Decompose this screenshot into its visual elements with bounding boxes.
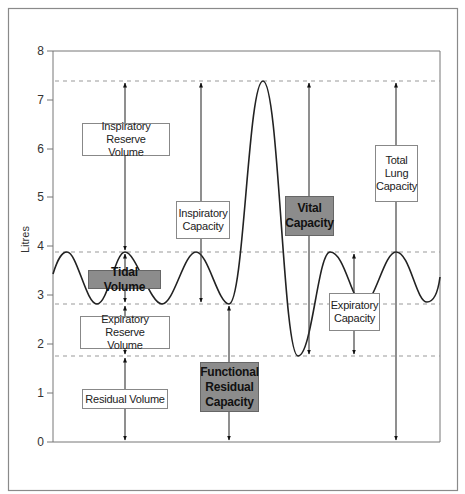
- y-tick-label: 1: [30, 386, 44, 400]
- ic-label: Inspiratory Capacity: [176, 201, 230, 239]
- erv-label: Expiratory Reserve Volume: [80, 316, 170, 349]
- rv-label: Residual Volume: [82, 389, 168, 409]
- y-tick-label: 4: [30, 239, 44, 253]
- ec-label: Expiratory Capacity: [329, 293, 380, 331]
- y-tick-label: 6: [30, 142, 44, 156]
- y-ticks: [47, 51, 53, 442]
- lung-volumes-chart: [0, 0, 465, 494]
- y-tick-label: 5: [30, 190, 44, 204]
- y-tick-label: 0: [30, 435, 44, 449]
- y-tick-label: 8: [30, 44, 44, 58]
- frc-label: Functional Residual Capacity: [200, 362, 259, 412]
- irv-label: Inspiratory Reserve Volume: [82, 123, 170, 156]
- y-tick-label: 3: [30, 288, 44, 302]
- vc-label: Vital Capacity: [285, 196, 334, 236]
- y-tick-label: 2: [30, 337, 44, 351]
- tlc-label: Total Lung Capacity: [375, 145, 418, 202]
- tv-label: Tidal Volume: [88, 270, 161, 289]
- y-axis-label: Litres: [19, 226, 31, 253]
- y-tick-label: 7: [30, 93, 44, 107]
